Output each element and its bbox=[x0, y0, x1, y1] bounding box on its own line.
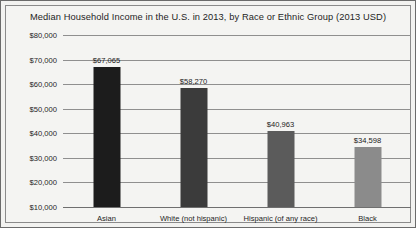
bar-value-label: $58,270 bbox=[180, 77, 207, 86]
bar-group: $40,963Hispanic (of any race) bbox=[237, 35, 324, 207]
chart-plot-frame: Median Household Income in the U.S. in 2… bbox=[5, 5, 411, 223]
bar-group: $58,270White (not hispanic) bbox=[150, 35, 237, 207]
plot-area: $80,000$70,000$60,000$50,000$40,000$30,0… bbox=[63, 35, 411, 207]
bar[interactable] bbox=[354, 147, 381, 207]
bar[interactable] bbox=[93, 67, 120, 207]
x-axis-category-label: Black bbox=[358, 214, 377, 223]
y-axis-tick-label: $80,000 bbox=[30, 31, 57, 40]
bar-value-label: $67,065 bbox=[93, 56, 120, 65]
y-axis-tick-label: $60,000 bbox=[30, 80, 57, 89]
chart-title: Median Household Income in the U.S. in 2… bbox=[6, 12, 410, 22]
chart-container: Median Household Income in the U.S. in 2… bbox=[0, 0, 416, 228]
bar[interactable] bbox=[267, 131, 294, 207]
bar-value-label: $40,963 bbox=[267, 120, 294, 129]
y-axis-tick-label: $40,000 bbox=[30, 129, 57, 138]
x-axis-line bbox=[63, 207, 411, 208]
y-axis-tick-label: $30,000 bbox=[30, 153, 57, 162]
x-axis-category-label: Asian bbox=[97, 214, 116, 223]
x-axis-category-label: White (not hispanic) bbox=[160, 214, 227, 223]
y-axis-tick-label: $20,000 bbox=[30, 178, 57, 187]
y-axis-tick-label: $70,000 bbox=[30, 55, 57, 64]
x-axis-category-label: Hispanic (of any race) bbox=[244, 214, 318, 223]
bar[interactable] bbox=[180, 88, 207, 207]
y-axis-tick-label: $50,000 bbox=[30, 104, 57, 113]
y-axis-tick-label: $10,000 bbox=[30, 203, 57, 212]
bar-group: $67,065Asian bbox=[63, 35, 150, 207]
bar-value-label: $34,598 bbox=[354, 136, 381, 145]
bar-group: $34,598Black bbox=[324, 35, 411, 207]
